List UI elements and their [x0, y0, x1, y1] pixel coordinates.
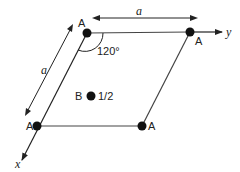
label-lattice-a-top: a [136, 4, 142, 18]
edge-right [142, 32, 190, 126]
label-a-bottom-left: A [26, 120, 34, 132]
label-y-axis: y [225, 25, 232, 39]
label-b-height: 1/2 [98, 90, 113, 102]
label-angle: 120° [97, 45, 120, 57]
label-x-axis: x [14, 157, 21, 171]
label-b: B [75, 90, 82, 102]
atom-a-bottom-right [138, 122, 147, 131]
dimension-top-arrow-right [190, 15, 198, 21]
atom-a-bottom-left [33, 122, 42, 131]
atom-a-top-left [83, 29, 92, 38]
label-a-top-right: A [195, 35, 203, 47]
label-lattice-a-left: a [41, 63, 47, 77]
edge-top [87, 32, 190, 33]
atom-b-center [87, 92, 96, 101]
dimension-left [28, 30, 70, 110]
label-a-bottom-right: A [148, 120, 156, 132]
dimension-left-arrow-top [67, 24, 73, 32]
unit-cell-diagram: A A A A B 1/2 120° a a y x [0, 0, 240, 172]
dimension-top-arrow-left [92, 15, 100, 21]
label-a-top-left: A [78, 17, 86, 29]
atom-a-top-right [186, 28, 195, 37]
